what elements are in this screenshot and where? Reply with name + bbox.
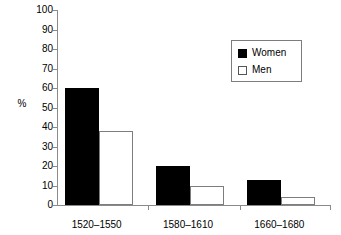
y-tick-label: 80: [29, 42, 53, 55]
y-tick-mark: [53, 166, 58, 167]
y-tick-mark: [53, 49, 58, 50]
y-tick-mark: [53, 10, 58, 11]
filled-square-icon: [238, 49, 247, 58]
clipped-caption: [0, 228, 341, 235]
y-tick-mark: [53, 30, 58, 31]
bar-men-1660–1680: [281, 197, 315, 205]
y-tick-mark: [53, 205, 58, 206]
y-tick-label: 30: [29, 140, 53, 153]
y-tick-label: 40: [29, 120, 53, 133]
y-tick-mark: [53, 147, 58, 148]
x-tick-mark: [148, 205, 149, 210]
y-tick-label: 60: [29, 81, 53, 94]
y-tick-label: 0: [29, 198, 53, 211]
y-tick-label: 50: [29, 101, 53, 114]
bar-women-1580–1610: [156, 166, 190, 205]
bar-women-1660–1680: [247, 180, 281, 205]
hollow-square-icon: [238, 66, 247, 75]
chart-legend: Women Men: [231, 40, 302, 82]
y-tick-label: 90: [29, 23, 53, 36]
legend-label-women: Women: [252, 47, 286, 59]
legend-item-men: Men: [238, 63, 271, 77]
x-axis-line: [57, 205, 331, 206]
bar-men-1520–1550: [99, 131, 133, 205]
clipped-caption-text: [52, 228, 341, 235]
y-tick-label: 10: [29, 179, 53, 192]
x-tick-mark: [240, 205, 241, 210]
x-tick-mark: [330, 205, 331, 210]
bar-men-1580–1610: [190, 186, 224, 206]
bar-women-1520–1550: [65, 88, 99, 205]
y-tick-mark: [53, 127, 58, 128]
y-tick-label: 100: [29, 3, 53, 16]
legend-item-women: Women: [238, 46, 286, 60]
y-tick-label: 20: [29, 159, 53, 172]
y-tick-mark: [53, 88, 58, 89]
y-tick-mark: [53, 69, 58, 70]
y-tick-mark: [53, 186, 58, 187]
y-tick-mark: [53, 108, 58, 109]
y-tick-label: 70: [29, 62, 53, 75]
bar-chart-figure: % 0102030405060708090100 1520–15501580–1…: [0, 0, 341, 235]
legend-label-men: Men: [252, 64, 271, 76]
